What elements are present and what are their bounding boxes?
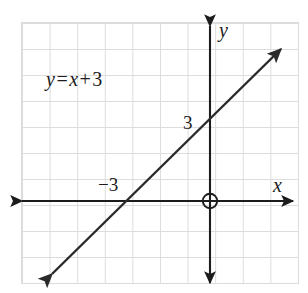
coordinate-plane-figure: y=x+3 y x 3 −3	[0, 0, 308, 293]
equation-constant: 3	[92, 68, 103, 90]
equation-equals-sign: =	[55, 68, 69, 90]
x-intercept-tick-label: −3	[98, 175, 118, 194]
x-axis-label: x	[273, 175, 282, 195]
equation-rhs-variable: x	[69, 68, 78, 90]
y-intercept-tick-label: 3	[183, 113, 193, 132]
axes-and-line-overlay	[0, 0, 308, 293]
y-axis-label: y	[219, 20, 228, 40]
equation-plus-sign: +	[79, 68, 93, 90]
equation-lhs: y	[46, 68, 55, 90]
equation-label: y=x+3	[46, 69, 103, 89]
